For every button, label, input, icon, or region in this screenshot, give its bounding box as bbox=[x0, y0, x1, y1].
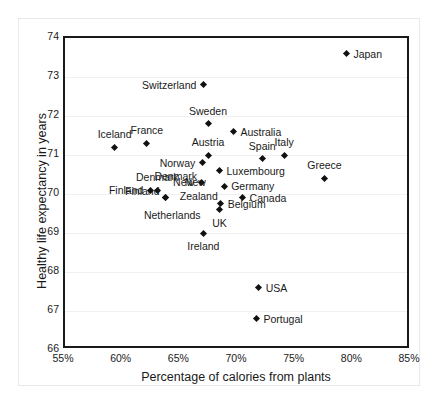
point-label: Belgium bbox=[228, 198, 266, 209]
point-label: Austria bbox=[192, 137, 225, 148]
point-label: France bbox=[131, 125, 164, 136]
gridline bbox=[65, 272, 407, 273]
x-axis-title: Percentage of calories from plants bbox=[63, 370, 409, 384]
x-axis-tick: 65% bbox=[168, 352, 189, 364]
y-axis-tick: 74 bbox=[47, 30, 59, 42]
point-label: USA bbox=[266, 282, 288, 293]
point-label: Luxembourg bbox=[227, 165, 285, 176]
point-label: UK bbox=[212, 217, 227, 228]
point-label: Japan bbox=[353, 48, 382, 59]
y-axis-tick: 68 bbox=[47, 264, 59, 276]
point-label: Iceland bbox=[98, 129, 132, 140]
gridline bbox=[65, 77, 407, 78]
point-label: Zealand bbox=[180, 190, 218, 201]
x-axis-tick: 75% bbox=[283, 352, 304, 364]
x-axis-tick-labels: 55%60%65%70%75%80%85% bbox=[63, 352, 409, 368]
point-label: Ireland bbox=[187, 241, 219, 252]
gridline bbox=[65, 311, 407, 312]
point-label: Italy bbox=[274, 137, 293, 148]
y-axis-tick: 73 bbox=[47, 69, 59, 81]
y-axis-tick: 71 bbox=[47, 147, 59, 159]
gridline bbox=[65, 155, 407, 156]
point-label: Sweden bbox=[189, 105, 227, 116]
point-label: Greece bbox=[307, 160, 341, 171]
point-label: Spain bbox=[249, 140, 276, 151]
point-label: Netherlands bbox=[144, 210, 201, 221]
y-axis-tick: 69 bbox=[47, 225, 59, 237]
x-axis-tick: 55% bbox=[52, 352, 73, 364]
x-axis-tick: 85% bbox=[398, 352, 419, 364]
y-axis-tick: 72 bbox=[47, 108, 59, 120]
x-axis-tick: 70% bbox=[225, 352, 246, 364]
y-axis-tick: 70 bbox=[47, 186, 59, 198]
point-label: Finland bbox=[125, 185, 159, 196]
point-label: Switzerland bbox=[142, 79, 196, 90]
point-label: Germany bbox=[231, 181, 274, 192]
y-axis-tick-labels: 666768697071727374 bbox=[28, 36, 59, 348]
x-axis-tick: 80% bbox=[341, 352, 362, 364]
plot-area: JapanSwitzerlandSwedenAustraliaIcelandFr… bbox=[63, 36, 409, 348]
point-label: Norway bbox=[160, 157, 196, 168]
scatter-plot-figure: Healthy life expectancy in years 6667686… bbox=[0, 0, 438, 415]
point-label: Portugal bbox=[263, 313, 302, 324]
gridline bbox=[65, 233, 407, 234]
x-axis-tick: 60% bbox=[110, 352, 131, 364]
gridline bbox=[65, 116, 407, 117]
y-axis-tick: 67 bbox=[47, 303, 59, 315]
point-label: New bbox=[185, 177, 206, 188]
